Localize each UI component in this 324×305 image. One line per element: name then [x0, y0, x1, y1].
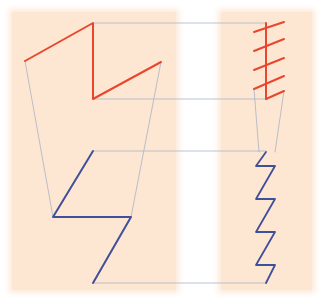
polyline-shapes [25, 22, 284, 283]
red-tick-right [254, 58, 284, 70]
red-tick-right [254, 39, 284, 51]
red-tick-right [266, 91, 284, 99]
blue-zigzag-left [53, 151, 131, 283]
red-tick-right [254, 22, 284, 32]
red-tick-right [254, 76, 284, 89]
projection-drawing [0, 0, 324, 305]
guide-line [275, 91, 284, 152]
diagram-canvas [0, 0, 324, 305]
blue-zigzag-right [256, 152, 275, 283]
projection-guide-lines [25, 23, 284, 283]
guide-line [25, 61, 53, 217]
red-zigzag-left [25, 23, 161, 99]
guide-line [254, 89, 259, 152]
guide-line [131, 62, 161, 217]
